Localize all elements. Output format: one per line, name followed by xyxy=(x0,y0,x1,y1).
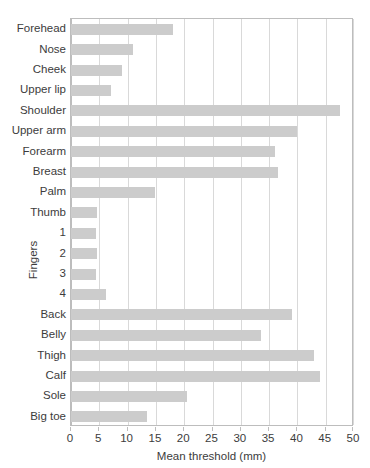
y-axis-label: Belly xyxy=(0,328,66,340)
bar-row xyxy=(71,227,352,239)
bar xyxy=(71,330,261,341)
bar xyxy=(71,146,275,157)
y-axis-label: Nose xyxy=(0,43,66,55)
bar-row xyxy=(71,411,352,423)
bar xyxy=(71,350,314,361)
x-tick-label-10: 10 xyxy=(120,432,133,444)
x-axis-title: Mean threshold (mm) xyxy=(70,450,353,462)
bar-row xyxy=(71,350,352,362)
gridline-50 xyxy=(353,19,354,425)
tick-mark-20 xyxy=(183,427,184,431)
bar xyxy=(71,391,187,402)
tick-mark-0 xyxy=(70,427,71,431)
bar-row xyxy=(71,370,352,382)
bar xyxy=(71,44,133,55)
bar xyxy=(71,269,96,280)
y-axis-group-label-fingers: Fingers xyxy=(26,230,40,290)
bar xyxy=(71,248,97,259)
y-axis-label: Forehead xyxy=(0,22,66,34)
bar-row xyxy=(71,186,352,198)
bar-row xyxy=(71,309,352,321)
x-tick-label-30: 30 xyxy=(233,432,246,444)
bar xyxy=(71,187,155,198)
bar-row xyxy=(71,146,352,158)
bar-row xyxy=(71,268,352,280)
tick-mark-15 xyxy=(155,427,156,431)
bar xyxy=(71,24,173,35)
bar xyxy=(71,289,106,300)
plot-area xyxy=(70,18,353,426)
bar xyxy=(71,371,320,382)
y-axis-label: Big toe xyxy=(0,410,66,422)
bar-row xyxy=(71,64,352,76)
y-axis-label: Cheek xyxy=(0,63,66,75)
bar xyxy=(71,85,111,96)
x-axis-tick-labels: 05101520253035404550 xyxy=(70,432,353,448)
bar xyxy=(71,105,340,116)
y-axis-label: Forearm xyxy=(0,145,66,157)
bar xyxy=(71,167,278,178)
x-tick-label-45: 45 xyxy=(318,432,331,444)
bar-row xyxy=(71,84,352,96)
x-tick-label-20: 20 xyxy=(177,432,190,444)
x-tick-label-25: 25 xyxy=(205,432,218,444)
horizontal-bar-chart: ForeheadNoseCheekUpper lipShoulderUpper … xyxy=(0,0,370,468)
bar xyxy=(71,309,292,320)
x-tick-label-35: 35 xyxy=(262,432,275,444)
tick-mark-10 xyxy=(127,427,128,431)
y-axis-label: Shoulder xyxy=(0,104,66,116)
tick-mark-30 xyxy=(240,427,241,431)
x-tick-label-5: 5 xyxy=(95,432,101,444)
bar xyxy=(71,65,122,76)
y-axis-label: Back xyxy=(0,308,66,320)
tick-mark-35 xyxy=(268,427,269,431)
bar-row xyxy=(71,248,352,260)
x-tick-label-50: 50 xyxy=(347,432,360,444)
bar-row xyxy=(71,105,352,117)
bar xyxy=(71,228,96,239)
bar-row xyxy=(71,44,352,56)
bar-row xyxy=(71,288,352,300)
bar-row xyxy=(71,125,352,137)
tick-mark-45 xyxy=(325,427,326,431)
bar-row xyxy=(71,329,352,341)
x-tick-label-40: 40 xyxy=(290,432,303,444)
bar-row xyxy=(71,23,352,35)
y-axis-label: Sole xyxy=(0,389,66,401)
tick-mark-25 xyxy=(212,427,213,431)
bar-row xyxy=(71,207,352,219)
bars-layer xyxy=(71,19,352,425)
bar-row xyxy=(71,166,352,178)
fingers-group-label-text: Fingers xyxy=(27,241,39,279)
bar xyxy=(71,126,297,137)
y-axis-label: Calf xyxy=(0,369,66,381)
tick-mark-40 xyxy=(296,427,297,431)
y-axis-label: Palm xyxy=(0,185,66,197)
y-axis-label: Upper lip xyxy=(0,83,66,95)
x-tick-label-0: 0 xyxy=(67,432,73,444)
tick-mark-50 xyxy=(352,427,353,431)
tick-mark-5 xyxy=(98,427,99,431)
y-axis-label: Upper arm xyxy=(0,124,66,136)
y-axis-label: Thigh xyxy=(0,349,66,361)
bar xyxy=(71,411,147,422)
bar-row xyxy=(71,390,352,402)
y-axis-label: Thumb xyxy=(0,206,66,218)
bar xyxy=(71,207,97,218)
y-axis-label: Breast xyxy=(0,165,66,177)
x-tick-label-15: 15 xyxy=(148,432,161,444)
y-axis-category-labels: ForeheadNoseCheekUpper lipShoulderUpper … xyxy=(0,18,66,426)
